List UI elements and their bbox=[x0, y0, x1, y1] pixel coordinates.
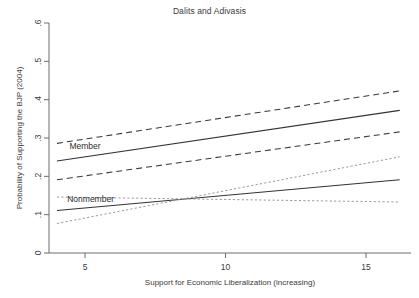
series-line bbox=[57, 157, 400, 224]
y-tick-label: .2 bbox=[33, 173, 43, 180]
chart-figure: Dalits and Adivasis 0.1.2.3.4.5.6 Probab… bbox=[0, 0, 419, 298]
plot-area: 0.1.2.3.4.5.6 Probability of Supporting … bbox=[0, 0, 419, 298]
x-tick-label: 5 bbox=[83, 262, 88, 272]
y-axis-title: Probability of Supporting the BJP (2004) bbox=[15, 66, 24, 209]
series-annotation: Nonmember bbox=[67, 194, 114, 204]
x-tick-label: 15 bbox=[361, 262, 371, 272]
series-annotation: Member bbox=[69, 141, 100, 151]
x-axis: 51015 Support for Economic Liberalizatio… bbox=[49, 253, 411, 287]
x-axis-title: Support for Economic Liberalization (inc… bbox=[145, 278, 316, 287]
y-tick-label: .5 bbox=[33, 58, 43, 65]
y-axis-tick-labels: 0.1.2.3.4.5.6 bbox=[33, 19, 43, 255]
y-tick-label: .6 bbox=[33, 19, 43, 26]
y-tick-label: .1 bbox=[33, 211, 43, 218]
y-tick-label: .4 bbox=[33, 96, 43, 103]
y-axis-ticks bbox=[44, 23, 49, 253]
y-tick-label: 0 bbox=[33, 250, 43, 255]
y-tick-label: .3 bbox=[33, 134, 43, 141]
x-axis-ticks bbox=[85, 253, 366, 258]
series-line bbox=[57, 132, 400, 180]
x-tick-label: 10 bbox=[221, 262, 231, 272]
y-axis: 0.1.2.3.4.5.6 Probability of Supporting … bbox=[15, 19, 49, 255]
x-axis-tick-labels: 51015 bbox=[83, 262, 371, 272]
